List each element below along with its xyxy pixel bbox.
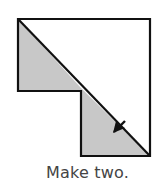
caption-text: Make two. — [46, 164, 156, 182]
fold-diagram — [0, 0, 167, 186]
